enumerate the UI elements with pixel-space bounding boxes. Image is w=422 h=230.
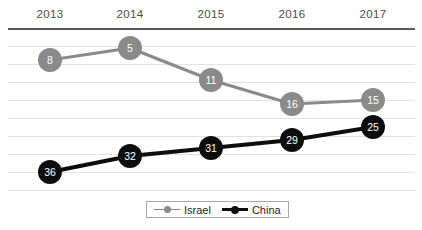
- rank-line-chart: 2013 2014 2015 2016 2017 8 5 11 16 15 36…: [0, 0, 422, 230]
- data-point-israel-2016[interactable]: 16: [280, 92, 304, 116]
- x-axis-year-labels: 2013 2014 2015 2016 2017: [0, 6, 422, 26]
- x-axis-label-2015: 2015: [181, 6, 241, 22]
- x-axis-label-2014: 2014: [100, 6, 160, 22]
- legend-item-israel[interactable]: Israel: [154, 204, 211, 216]
- x-axis-label-2016: 2016: [262, 6, 322, 22]
- data-point-china-2015[interactable]: 31: [199, 136, 223, 160]
- series-lines: [0, 28, 422, 193]
- data-point-china-2016[interactable]: 29: [280, 128, 304, 152]
- legend-line-marker-icon: [222, 205, 248, 215]
- legend-label-china: China: [252, 204, 281, 216]
- chart-legend: Israel China: [146, 201, 289, 218]
- data-point-china-2014[interactable]: 32: [118, 144, 142, 168]
- data-point-china-2017[interactable]: 25: [361, 115, 385, 139]
- data-point-israel-2013[interactable]: 8: [38, 48, 62, 72]
- legend-line-marker-icon: [154, 205, 180, 215]
- legend-item-china[interactable]: China: [222, 204, 281, 216]
- x-axis-label-2017: 2017: [343, 6, 403, 22]
- data-point-israel-2017[interactable]: 15: [361, 88, 385, 112]
- plot-area: 8 5 11 16 15 36 32 31 29 25: [0, 28, 422, 193]
- data-point-israel-2014[interactable]: 5: [118, 36, 142, 60]
- data-point-china-2013[interactable]: 36: [38, 160, 62, 184]
- x-axis-label-2013: 2013: [20, 6, 80, 22]
- data-point-israel-2015[interactable]: 11: [199, 68, 223, 92]
- legend-label-israel: Israel: [184, 204, 211, 216]
